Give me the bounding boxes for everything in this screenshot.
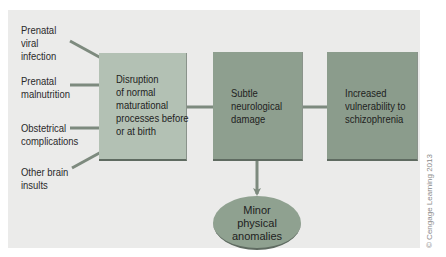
box-line: Disruption bbox=[116, 73, 189, 86]
copyright-credit: © Cengage Learning 2013 bbox=[425, 154, 434, 248]
box-line: vulnerability to bbox=[345, 100, 405, 113]
ellipse-line: physical bbox=[213, 217, 301, 230]
box-line: processes before bbox=[116, 112, 189, 125]
box-line: of normal bbox=[116, 86, 189, 99]
cause-obstetrical-complications: Obstetrical complications bbox=[21, 122, 78, 148]
cause-line: Obstetrical bbox=[21, 122, 78, 135]
box-increased-vulnerability: Increased vulnerability to schizophrenia bbox=[327, 52, 418, 161]
box-line: Increased bbox=[345, 87, 405, 100]
cause-line: Prenatal bbox=[21, 75, 70, 88]
cause-line: Prenatal bbox=[21, 24, 56, 37]
ellipse-line: Minor bbox=[213, 204, 301, 217]
cause-prenatal-malnutrition: Prenatal malnutrition bbox=[21, 75, 70, 101]
box-disruption-of-maturation: Disruption of normal maturational proces… bbox=[99, 53, 187, 161]
cause-line: insults bbox=[21, 179, 68, 192]
box-line: or at birth bbox=[116, 125, 189, 138]
ellipse-line: anomalies bbox=[213, 230, 301, 243]
box-line: schizophrenia bbox=[345, 113, 405, 126]
cause-line: Other brain bbox=[21, 166, 68, 179]
cause-other-brain-insults: Other brain insults bbox=[21, 166, 68, 192]
cause-line: infection bbox=[21, 50, 56, 63]
box-line: Subtle bbox=[231, 87, 282, 100]
cause-line: complications bbox=[21, 135, 78, 148]
box-line: neurological bbox=[231, 100, 282, 113]
ellipse-minor-physical-anomalies: Minor physical anomalies bbox=[213, 196, 301, 250]
cause-line: viral bbox=[21, 37, 56, 50]
cause-line: malnutrition bbox=[21, 88, 70, 101]
box-subtle-neurological-damage: Subtle neurological damage bbox=[213, 52, 303, 161]
box-line: damage bbox=[231, 113, 282, 126]
box-line: maturational bbox=[116, 99, 189, 112]
cause-prenatal-viral-infection: Prenatal viral infection bbox=[21, 24, 56, 63]
